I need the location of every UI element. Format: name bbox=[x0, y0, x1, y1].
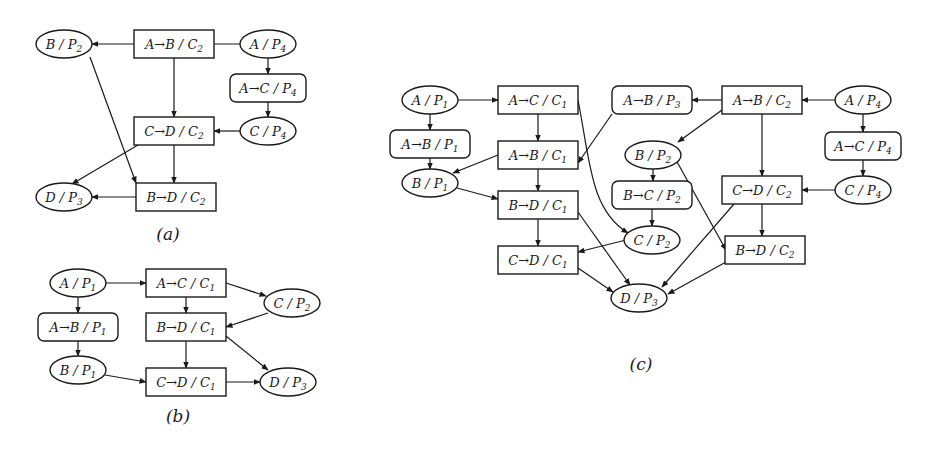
figure-b: A / P1A→C / C1C / P2A→B / P1B→D / C1B / … bbox=[38, 269, 320, 426]
node-bp2: B / P2 bbox=[36, 30, 92, 58]
node-cp4: C / P4 bbox=[835, 176, 891, 204]
node-ap1: A / P1 bbox=[50, 269, 106, 297]
node-label: A→B / P1 bbox=[49, 320, 107, 337]
node-acc1: A→C / C1 bbox=[498, 86, 578, 114]
edge-arrow bbox=[90, 57, 136, 183]
edge-arrow bbox=[578, 268, 613, 292]
node-bdc1: B→D / C1 bbox=[498, 191, 578, 219]
node-label: A→C / C1 bbox=[508, 93, 568, 110]
node-label: B→D / C1 bbox=[155, 320, 215, 337]
node-label: A→B / C2 bbox=[732, 93, 791, 110]
node-bp1: B / P1 bbox=[50, 356, 106, 384]
edge-curve bbox=[578, 100, 628, 233]
edge-arrow bbox=[226, 313, 268, 327]
node-acc1: A→C / C1 bbox=[146, 269, 226, 297]
node-ap4: A / P4 bbox=[835, 86, 891, 114]
node-label: A→C / P4 bbox=[833, 139, 892, 156]
node-dp3: D / P3 bbox=[611, 284, 667, 312]
node-acp4: A→C / P4 bbox=[825, 132, 901, 160]
node-label: A→C / C1 bbox=[156, 276, 216, 293]
node-cp2: C / P2 bbox=[264, 289, 320, 317]
node-bdc1: B→D / C1 bbox=[146, 313, 226, 341]
edge-arrow bbox=[226, 283, 266, 296]
node-abp3: A→B / P3 bbox=[612, 86, 692, 114]
node-label: C→D / C2 bbox=[144, 124, 204, 141]
node-dp3: D / P3 bbox=[260, 368, 316, 396]
diagram-canvas: B / P2A→B / C2A / P4A→C / P4C→D / C2C / … bbox=[0, 0, 933, 452]
node-bcp2: B→C / P2 bbox=[612, 181, 692, 209]
node-label: A→B / P3 bbox=[623, 93, 681, 110]
node-acp4: A→C / P4 bbox=[230, 74, 306, 102]
node-label: A→B / P1 bbox=[401, 137, 459, 154]
edge-arrow bbox=[668, 262, 726, 294]
node-bdc2: B→D / C2 bbox=[136, 183, 216, 211]
node-cdc2: C→D / C2 bbox=[134, 117, 214, 145]
node-cdc1: C→D / C1 bbox=[498, 246, 578, 274]
figure-c: A / P1A→C / C1A→B / P3A→B / C2A / P4A→B … bbox=[390, 86, 901, 374]
node-label: C→D / C1 bbox=[156, 375, 216, 392]
node-ap1: A / P1 bbox=[402, 86, 458, 114]
node-label: C→D / C2 bbox=[732, 183, 792, 200]
figure-caption: (b) bbox=[166, 406, 190, 426]
node-cp4: C / P4 bbox=[240, 117, 296, 145]
figure-a: B / P2A→B / C2A / P4A→C / P4C→D / C2C / … bbox=[36, 30, 306, 244]
node-cdc2: C→D / C2 bbox=[722, 176, 802, 204]
edge-arrow bbox=[72, 145, 138, 184]
node-label: C→D / C1 bbox=[508, 253, 568, 270]
node-abc2: A→B / C2 bbox=[134, 30, 214, 58]
node-label: A→B / C1 bbox=[508, 148, 567, 165]
edge-arrow bbox=[226, 336, 268, 370]
node-ap4: A / P4 bbox=[240, 30, 296, 58]
node-label: B→D / C1 bbox=[507, 198, 567, 215]
figures-root: B / P2A→B / C2A / P4A→C / P4C→D / C2C / … bbox=[36, 30, 901, 426]
node-label: B→D / C2 bbox=[145, 190, 205, 207]
node-abp1: A→B / P1 bbox=[38, 313, 118, 341]
figure-caption: (c) bbox=[630, 354, 653, 374]
node-abc2: A→B / C2 bbox=[722, 86, 802, 114]
node-abc1: A→B / C1 bbox=[498, 141, 578, 169]
node-cdc1: C→D / C1 bbox=[146, 368, 226, 396]
edge-arrow bbox=[457, 188, 498, 199]
node-bp2: B / P2 bbox=[625, 141, 681, 169]
node-label: B→C / P2 bbox=[622, 188, 681, 205]
edge-arrow bbox=[678, 110, 722, 142]
node-cp2: C / P2 bbox=[624, 226, 680, 254]
node-label: B→D / C2 bbox=[734, 243, 794, 260]
node-dp3: D / P3 bbox=[36, 183, 92, 211]
edge-arrow bbox=[105, 375, 146, 382]
node-abp1: A→B / P1 bbox=[390, 130, 470, 158]
node-bdc2: B→D / C2 bbox=[725, 236, 805, 264]
figure-caption: (a) bbox=[156, 224, 179, 244]
edge-arrow bbox=[578, 114, 612, 163]
node-bp1: B / P1 bbox=[402, 169, 458, 197]
node-label: A→C / P4 bbox=[238, 81, 297, 98]
node-label: A→B / C2 bbox=[144, 37, 203, 54]
